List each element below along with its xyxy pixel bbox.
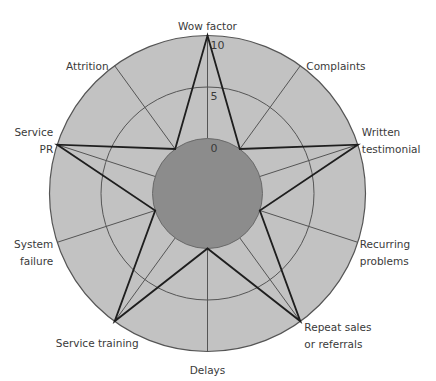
- axis-label: Complaints: [306, 60, 365, 72]
- axis-label: Systemfailure: [14, 238, 53, 267]
- radar-chart: 10 5 0 Wow factorComplaintsWrittentestim…: [0, 0, 436, 381]
- axis-label-line: problems: [360, 255, 409, 267]
- data-point: [154, 210, 156, 212]
- axis-label-line: PR: [40, 143, 54, 155]
- axis-label: Writtentestimonial: [362, 126, 421, 155]
- axis-label: Recurringproblems: [360, 238, 410, 267]
- axis-label-line: System: [14, 238, 53, 250]
- axis-label: ServicePR: [14, 126, 53, 155]
- data-point: [114, 321, 116, 323]
- zero-disc: [153, 139, 263, 249]
- axis-label-line: Service training: [56, 337, 139, 349]
- axis-label-line: Repeat sales: [304, 321, 371, 333]
- axis-label-line: Written: [362, 126, 401, 138]
- axis-label-line: Wow factor: [178, 20, 238, 32]
- axis-label-line: Service: [14, 126, 53, 138]
- axis-label-line: failure: [20, 255, 53, 267]
- data-point: [239, 148, 241, 150]
- axis-label: Delays: [190, 364, 226, 376]
- axis-label: Service training: [56, 337, 139, 349]
- data-point: [207, 248, 209, 250]
- axis-label: Wow factor: [178, 20, 238, 32]
- axis-label-line: Recurring: [360, 238, 410, 250]
- data-point: [357, 144, 359, 146]
- tick-label-0: 0: [211, 142, 218, 155]
- axis-label: Repeat salesor referrals: [304, 321, 371, 350]
- axis-label-line: Delays: [190, 364, 226, 376]
- data-point: [300, 321, 302, 323]
- data-point: [207, 35, 209, 37]
- axis-label-line: or referrals: [304, 338, 362, 350]
- data-point: [259, 210, 261, 212]
- axis-label-line: Complaints: [306, 60, 365, 72]
- data-point: [174, 148, 176, 150]
- data-point: [56, 144, 58, 146]
- axis-label-line: Attrition: [66, 60, 109, 72]
- axis-label-line: testimonial: [362, 143, 421, 155]
- tick-label-5: 5: [211, 90, 218, 103]
- axis-label: Attrition: [66, 60, 109, 72]
- tick-label-10: 10: [211, 39, 225, 52]
